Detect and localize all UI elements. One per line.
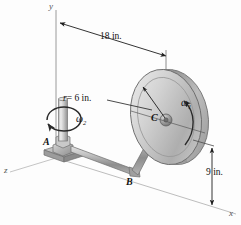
vertical-shaft — [59, 99, 68, 141]
dimension-18in-label: 18 in. — [100, 32, 122, 42]
omega2-subscript: 2 — [83, 119, 86, 126]
radius-value: = 6 in. — [67, 93, 92, 103]
point-b-label: B — [126, 177, 133, 187]
x-axis-label: x — [229, 209, 233, 218]
rod-segment-ab — [71, 146, 133, 175]
omega1-subscript: 1 — [188, 103, 191, 110]
omega2-symbol: ω — [76, 113, 83, 124]
dimension-radius-label: r= 6 in. — [63, 94, 91, 104]
z-axis-line — [10, 158, 56, 172]
omega2-label: ω2 — [76, 114, 86, 127]
dimension-9in-label: 9 in. — [206, 168, 223, 178]
omega1-label: ω1 — [181, 98, 191, 111]
z-axis-label: z — [4, 166, 8, 175]
mechanics-figure: y x z 18 in. r= 6 in. 9 in. A B C ω1 ω2 — [0, 0, 241, 225]
point-a-label: A — [43, 137, 50, 147]
disk-assembly — [122, 63, 216, 171]
y-axis-label: y — [49, 2, 53, 11]
point-c-label: C — [151, 113, 158, 123]
omega1-symbol: ω — [181, 97, 188, 108]
